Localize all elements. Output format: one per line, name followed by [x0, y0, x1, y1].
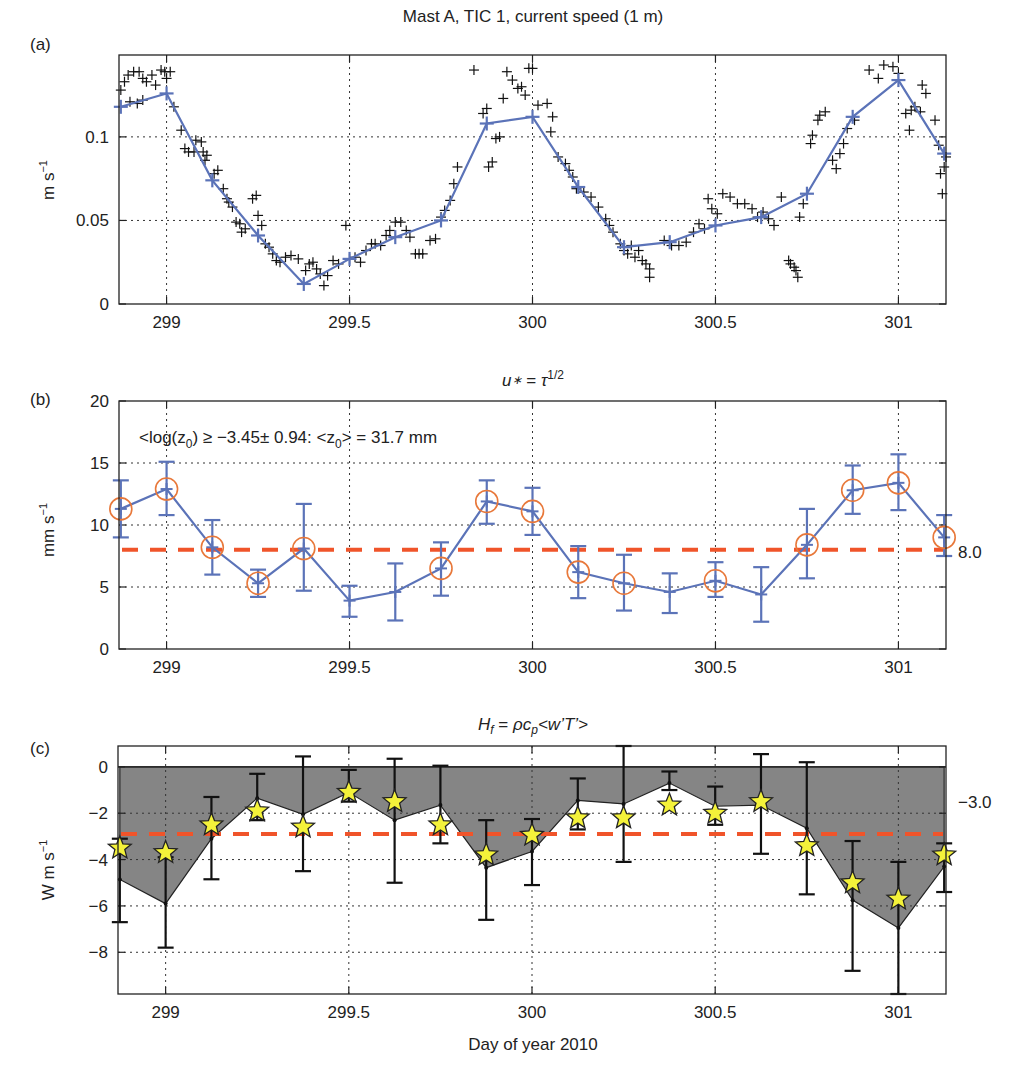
y-tick-label: 5 — [100, 578, 109, 597]
x-tick-label: 300.5 — [694, 658, 737, 677]
y-tick-label: 0.1 — [85, 128, 109, 147]
area-vertex — [896, 926, 900, 930]
panel-a-ylabel: m s−1 — [37, 160, 58, 200]
panel-b-roughness-annotation: <log(z0) ≥ −3.45± 0.94: <z0> = 31.7 mm — [139, 428, 437, 451]
x-tick-label: 301 — [884, 1003, 912, 1022]
x-tick-label: 299.5 — [328, 658, 371, 677]
area-vertex — [164, 902, 168, 906]
x-tick-label: 300.5 — [694, 1003, 737, 1022]
x-tick-label: 300 — [518, 313, 546, 332]
y-tick-label: −2 — [89, 804, 108, 823]
panel-c-label: (c) — [30, 739, 50, 758]
panel-b-title: u∗ = τ1/2 — [502, 368, 564, 390]
panel-a-title: Mast A, TIC 1, current speed (1 m) — [403, 7, 663, 26]
y-tick-label: 0 — [99, 758, 108, 777]
x-tick-label: 299.5 — [328, 313, 371, 332]
figure-canvas: Mast A, TIC 1, current speed (1 m) (a) m… — [0, 0, 1013, 1067]
star-marker — [658, 793, 681, 815]
y-tick-label: 0.05 — [76, 211, 109, 230]
area-vertex — [393, 818, 397, 822]
x-tick-label: 299.5 — [328, 1003, 371, 1022]
panel-b-label: (b) — [30, 390, 51, 409]
area-vertex — [530, 849, 534, 853]
panel-b-ylabel: mm s−1 — [37, 503, 58, 557]
panel-c-title: Hf = ρcp<w’T’> — [478, 715, 588, 737]
area-vertex — [484, 866, 488, 870]
x-tick-label: 300 — [518, 1003, 546, 1022]
panel-a-current-speed: Mast A, TIC 1, current speed (1 m) (a) m… — [30, 7, 951, 332]
area-vertex — [851, 898, 855, 902]
x-tick-label: 299 — [152, 658, 180, 677]
panel-a-grid — [119, 55, 946, 304]
y-tick-label: 15 — [90, 454, 109, 473]
y-tick-label: −6 — [89, 897, 108, 916]
panel-b-friction-velocity: u∗ = τ1/2 (b) mm s−1 05101520 299299.530… — [30, 368, 982, 677]
panel-a-label: (a) — [30, 35, 51, 54]
panel-c-heat-flux: Hf = ρcp<w’T’> (c) W m s−1 −8−6−4−20 299… — [30, 715, 992, 1054]
area-vertex — [667, 781, 671, 785]
area-vertex — [209, 837, 213, 841]
y-tick-label: −4 — [89, 851, 108, 870]
panel-b-reference-label: 8.0 — [958, 543, 982, 562]
x-tick-label: 300.5 — [694, 313, 737, 332]
area-vertex — [805, 826, 809, 830]
x-tick-label: 300 — [518, 658, 546, 677]
y-tick-label: 20 — [90, 392, 109, 411]
y-tick-label: 10 — [90, 516, 109, 535]
panel-c-ylabel: W m s−1 — [37, 840, 58, 901]
x-axis-label: Day of year 2010 — [468, 1035, 597, 1054]
panel-c-reference-label: −3.0 — [958, 793, 992, 812]
x-tick-label: 299 — [152, 313, 180, 332]
y-tick-label: 0 — [100, 640, 109, 659]
y-tick-label: −8 — [89, 943, 108, 962]
x-tick-label: 301 — [884, 313, 912, 332]
x-tick-label: 299 — [151, 1003, 179, 1022]
y-tick-label: 0 — [100, 295, 109, 314]
area-vertex — [576, 798, 580, 802]
figure: Mast A, TIC 1, current speed (1 m) (a) m… — [0, 0, 1013, 1067]
area-vertex — [438, 803, 442, 807]
x-tick-label: 301 — [884, 658, 912, 677]
panel-a-scatter-points — [116, 60, 951, 291]
